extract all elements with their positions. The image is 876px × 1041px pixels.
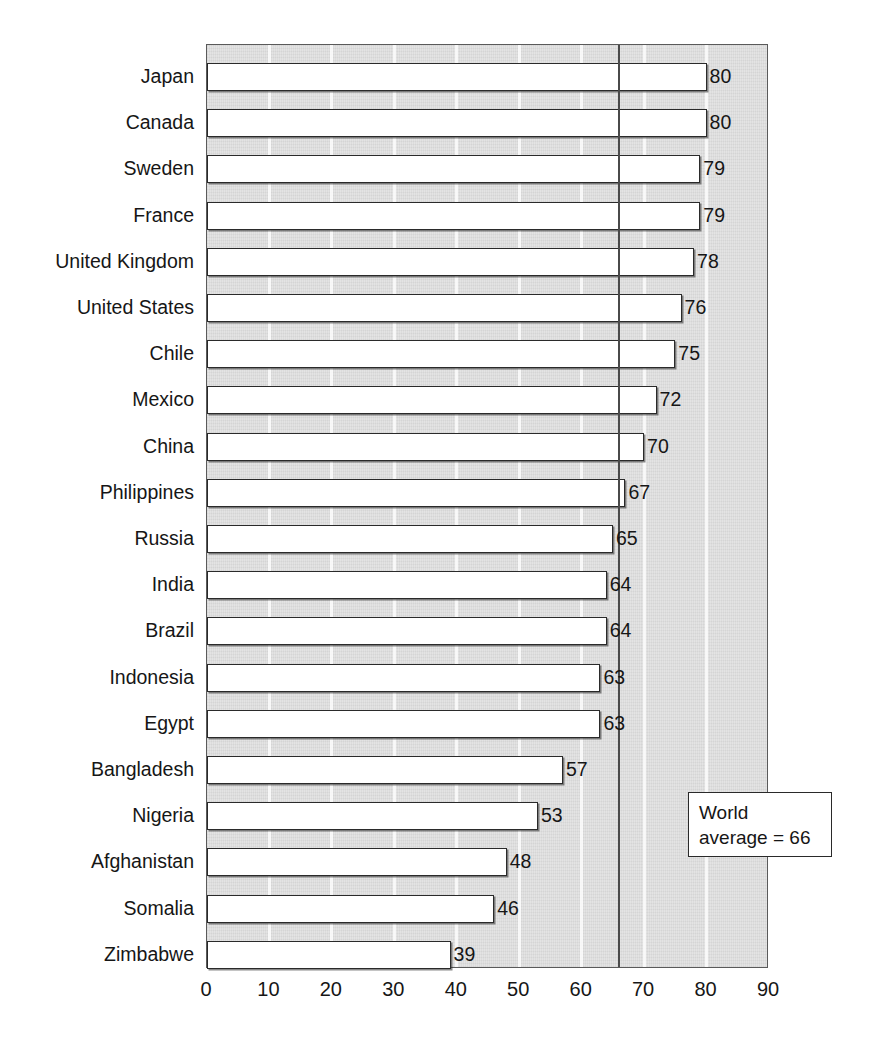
value-tick-label: 80 xyxy=(694,975,716,1003)
category-axis: JapanCanadaSwedenFranceUnited KingdomUni… xyxy=(0,44,200,968)
bar-value-label: 57 xyxy=(562,755,588,783)
bar-value-label: 39 xyxy=(450,940,476,968)
bar xyxy=(207,664,600,692)
bar xyxy=(207,479,625,507)
bar-chart: JapanCanadaSwedenFranceUnited KingdomUni… xyxy=(0,0,876,1041)
bar-value-label: 46 xyxy=(493,894,519,922)
category-label: Afghanistan xyxy=(91,847,194,875)
bar xyxy=(207,202,700,230)
category-label: Nigeria xyxy=(132,801,194,829)
bar xyxy=(207,617,607,645)
category-label: Egypt xyxy=(144,709,194,737)
bar xyxy=(207,941,451,969)
world-average-line2: average = 66 xyxy=(699,825,831,850)
bar-value-label: 80 xyxy=(706,62,732,90)
bar-value-label: 64 xyxy=(606,616,632,644)
value-tick-label: 20 xyxy=(320,975,342,1003)
category-label: China xyxy=(143,432,194,460)
bar xyxy=(207,340,675,368)
value-tick-label: 60 xyxy=(570,975,592,1003)
world-average-line xyxy=(618,45,620,967)
bar xyxy=(207,155,700,183)
bar xyxy=(207,848,507,876)
plot-area xyxy=(206,44,768,968)
bar xyxy=(207,525,613,553)
bar-value-label: 75 xyxy=(674,339,700,367)
value-tick-label: 40 xyxy=(445,975,467,1003)
bar-value-label: 70 xyxy=(643,432,669,460)
category-label: Russia xyxy=(134,524,194,552)
category-label: Zimbabwe xyxy=(104,940,194,968)
bar xyxy=(207,895,494,923)
bar xyxy=(207,294,682,322)
value-tick-label: 70 xyxy=(632,975,654,1003)
bar-value-label: 78 xyxy=(693,247,719,275)
value-tick-label: 50 xyxy=(507,975,529,1003)
bar-value-label: 79 xyxy=(699,201,725,229)
world-average-callout: World average = 66 xyxy=(688,792,832,857)
value-tick-label: 90 xyxy=(757,975,779,1003)
bar-value-label: 72 xyxy=(656,385,682,413)
value-tick-label: 0 xyxy=(200,975,211,1003)
value-tick-label: 30 xyxy=(382,975,404,1003)
category-label: United States xyxy=(77,293,194,321)
category-label: Sweden xyxy=(124,154,194,182)
bar xyxy=(207,63,707,91)
category-label: Mexico xyxy=(132,385,194,413)
bar-value-label: 63 xyxy=(599,663,625,691)
category-label: Japan xyxy=(141,62,194,90)
bar-value-label: 65 xyxy=(612,524,638,552)
category-label: India xyxy=(152,570,194,598)
bar xyxy=(207,109,707,137)
category-label: Chile xyxy=(150,339,194,367)
category-label: Somalia xyxy=(124,894,194,922)
category-label: Bangladesh xyxy=(91,755,194,783)
bar-value-label: 80 xyxy=(706,108,732,136)
bar xyxy=(207,756,563,784)
bar-value-label: 53 xyxy=(537,801,563,829)
value-axis: 0102030405060708090 xyxy=(0,975,876,1015)
category-label: Canada xyxy=(126,108,194,136)
bar xyxy=(207,386,657,414)
category-label: Brazil xyxy=(145,616,194,644)
bar-value-label: 64 xyxy=(606,570,632,598)
world-average-line1: World xyxy=(699,800,831,825)
bar-value-label: 76 xyxy=(681,293,707,321)
category-label: France xyxy=(133,201,194,229)
value-tick-label: 10 xyxy=(257,975,279,1003)
category-label: Indonesia xyxy=(109,663,194,691)
bar xyxy=(207,571,607,599)
bar xyxy=(207,433,644,461)
bar xyxy=(207,802,538,830)
bar-value-label: 63 xyxy=(599,709,625,737)
bar-value-label: 67 xyxy=(624,478,650,506)
bar-value-label: 79 xyxy=(699,154,725,182)
category-label: United Kingdom xyxy=(55,247,194,275)
bar xyxy=(207,248,694,276)
bar-value-label: 48 xyxy=(506,847,532,875)
bar xyxy=(207,710,600,738)
category-label: Philippines xyxy=(100,478,194,506)
